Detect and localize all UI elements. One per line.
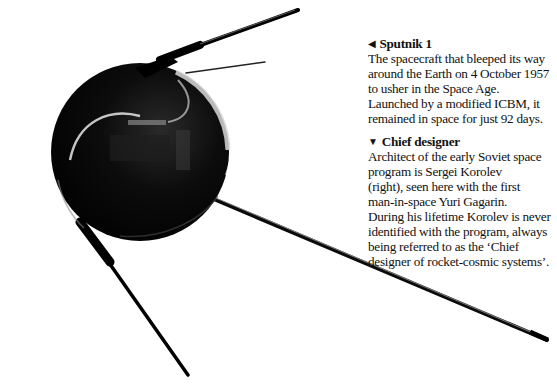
antenna-top: [135, 10, 298, 78]
caption-line: During his lifetime Korolev is never: [368, 209, 557, 224]
caption-line: man-in-space Yuri Gagarin.: [368, 194, 557, 209]
caption-heading-sputnik: ◀Sputnik 1: [368, 36, 557, 51]
caption-body-chief-designer: Architect of the early Soviet space prog…: [368, 149, 557, 269]
caption-line: to usher in the Space Age.: [368, 81, 557, 96]
caption-line: around the Earth on 4 October 1957: [368, 66, 557, 81]
caption-line: remained in space for just 92 days.: [368, 111, 557, 126]
caption-line: identified with the program, always: [368, 224, 557, 239]
sputnik-sphere: [51, 63, 232, 241]
caption-line: program is Sergei Korolev: [368, 164, 557, 179]
caption-body-sputnik: The spacecraft that bleeped its way arou…: [368, 51, 557, 126]
antenna-thin-middle: [186, 62, 265, 73]
caption-line: Architect of the early Soviet space: [368, 149, 557, 164]
caption-line: (right), seen here with the first: [368, 179, 557, 194]
caption-title: Chief designer: [382, 134, 460, 149]
left-triangle-icon: ◀: [368, 36, 375, 51]
caption-line: designer of rocket-cosmic systems’.: [368, 254, 557, 269]
caption-line: Launched by a modified ICBM, it: [368, 96, 557, 111]
page: ◀Sputnik 1 The spacecraft that bleeped i…: [0, 0, 557, 387]
caption-sputnik: ◀Sputnik 1 The spacecraft that bleeped i…: [368, 36, 557, 126]
caption-title: Sputnik 1: [379, 36, 431, 51]
captions-panel: ◀Sputnik 1 The spacecraft that bleeped i…: [368, 36, 557, 277]
caption-line: being referred to as the ‘Chief: [368, 239, 557, 254]
caption-heading-chief-designer: ▼Chief designer: [368, 134, 557, 149]
caption-chief-designer: ▼Chief designer Architect of the early S…: [368, 134, 557, 269]
down-triangle-icon: ▼: [368, 134, 378, 149]
caption-line: The spacecraft that bleeped its way: [368, 51, 557, 66]
antenna-lower-left: [80, 222, 188, 375]
